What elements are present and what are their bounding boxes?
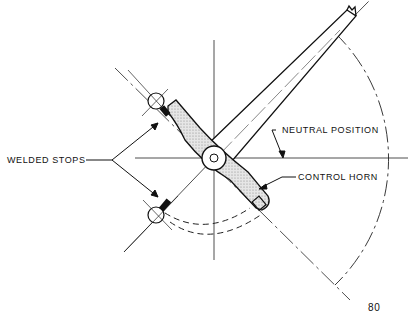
lower-welded-stop: [124, 196, 178, 252]
centerlines: [115, 0, 408, 300]
travel-arc: [335, 33, 389, 285]
welded-stops-label: WELDED STOPS: [7, 155, 86, 165]
control-horn-label: CONTROL HORN: [298, 172, 378, 182]
horn-travel-arc-inner: [170, 214, 262, 234]
neutral-position-label: NEUTRAL POSITION: [282, 125, 379, 135]
page-number: 80: [368, 302, 380, 313]
upper-welded-stop: [128, 70, 171, 117]
horn-travel-arc-outer: [165, 208, 250, 224]
control-stick: [207, 6, 356, 168]
